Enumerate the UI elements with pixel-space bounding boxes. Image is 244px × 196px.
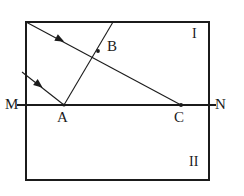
point-label-B: B xyxy=(107,39,117,54)
diagram-canvas xyxy=(0,0,244,196)
point-label-M: M xyxy=(5,97,18,112)
point-label-C: C xyxy=(174,110,184,125)
region-label-one: I xyxy=(192,27,197,41)
point-marker-B xyxy=(96,49,100,53)
figure-background xyxy=(0,0,244,196)
point-label-N: N xyxy=(215,97,226,112)
point-marker-C xyxy=(179,103,183,107)
region-label-two: II xyxy=(189,155,198,169)
point-marker-A xyxy=(62,103,65,106)
optics-diagram-figure: M N A B C I II xyxy=(0,0,244,196)
point-label-A: A xyxy=(57,110,68,125)
